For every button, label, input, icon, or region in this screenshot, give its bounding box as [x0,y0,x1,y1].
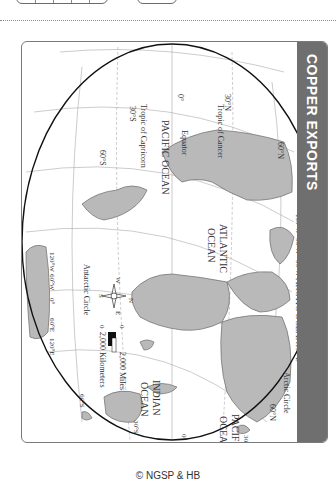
compass-rose-icon: N S E W [97,277,135,315]
australia [104,391,142,422]
madagascar [140,340,154,350]
label-equator: Equator [180,130,189,156]
label-60e: 60°E [48,318,56,332]
africa [132,274,230,330]
label-60n-east: 60°N [268,404,277,421]
label-60w: 60°W [48,274,56,291]
label-30n-east: 30°N [242,435,250,442]
label-60s-west: 60°S [98,150,107,166]
new-zealand [82,412,92,420]
compass-e: E [114,311,122,315]
south-america [82,186,147,220]
scale-zero-miles: 0 [118,325,126,329]
label-atlantic-line1: ATLANTIC [218,224,229,273]
label-pacific-east-line2: OCEAN [218,416,229,442]
map-title: COPPER EXPORTS [304,54,320,191]
divider [89,0,90,3]
header-box-left [16,0,108,4]
label-120w: 120°W [48,252,56,272]
scale-zero-km: 0 [98,325,106,329]
greenland [270,227,294,264]
label-60s-east: 60°S [78,394,86,408]
divider [71,0,72,3]
label-120e: 120°E [48,338,56,356]
label-30s-east: 30°S [132,420,140,434]
scale-bar: 0 0 2,000 Miles 2,000 Kilometers [98,325,127,390]
label-60n: 60°N [276,142,285,159]
label-0-lon: 0° [48,298,56,305]
divider [53,0,54,3]
compass-w: W [114,277,122,284]
compass-n: N [127,298,135,303]
label-equator-west-zero: 0° [176,94,185,101]
label-30s-west: 30°S [128,106,137,122]
label-pacific-ocean-west: PACIFIC OCEAN [160,120,171,194]
map-card: 30°N Tropic of Cancer 0° Equator PACIFIC… [21,41,328,443]
world-map: 30°N Tropic of Cancer 0° Equator PACIFIC… [22,42,327,442]
label-pacific-east-line1: PACIFIC [230,414,241,442]
label-indian-line2: OCEAN [139,382,150,416]
compass-s: S [97,294,105,298]
label-0-east: 0° [180,434,188,441]
copyright: © NGSP & HB [0,470,336,481]
scale-miles: 2,000 Miles [118,352,127,390]
header-box-right [137,0,177,4]
antarctica [26,245,50,338]
label-atlantic-line2: OCEAN [206,228,217,262]
label-tropic-of-capricorn: Tropic of Capricorn [139,104,148,168]
scale-kilometers: 2,000 Kilometers [98,332,107,388]
europe [227,272,290,312]
label-antarctic-circle: Antarctic Circle [82,264,91,316]
dotted-divider [0,20,336,21]
divider [35,0,36,3]
title-strip: COPPER EXPORTS [297,42,327,442]
label-indian-line1: INDIAN [151,380,162,416]
label-tropic-of-cancer: Tropic of Cancer [216,104,225,159]
label-arctic-circle: Arctic Circle [282,372,291,414]
